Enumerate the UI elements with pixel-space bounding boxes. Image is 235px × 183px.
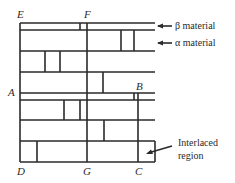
label-A: A [7, 86, 15, 98]
label-D: D [16, 165, 25, 177]
beta-material-label: β material [175, 20, 216, 31]
arrow-head-icon [157, 24, 163, 29]
interlaced-label-line1: Interlaced [178, 137, 218, 148]
lamellar-structure-diagram: E F A B D G C β material α material Inte… [0, 0, 235, 183]
label-F: F [83, 8, 91, 20]
label-G: G [83, 165, 91, 177]
arrow-head-icon [157, 41, 163, 46]
alpha-annotation: α material [157, 37, 216, 48]
arrow-head-icon [146, 150, 153, 155]
interlaced-label-line2: region [178, 150, 204, 161]
interlaced-annotation: Interlaced region [146, 137, 218, 161]
beta-annotation: β material [157, 20, 216, 31]
label-C: C [135, 165, 143, 177]
structure-lines [20, 23, 155, 162]
alpha-material-label: α material [175, 37, 216, 48]
label-B: B [136, 80, 143, 92]
label-E: E [16, 8, 24, 20]
